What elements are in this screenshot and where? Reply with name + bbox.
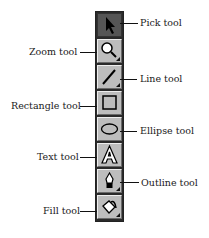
fill-tool-label: Fill tool (43, 205, 80, 216)
pick-tool-button[interactable] (97, 13, 122, 37)
arrow-pointer-icon (98, 14, 121, 36)
rectangle-tool-label: Rectangle tool (11, 100, 81, 111)
rectangle-tool-button[interactable] (97, 91, 122, 115)
flyout-indicator-icon (116, 57, 120, 61)
leader-line (80, 211, 97, 212)
text-tool-label: Text tool (37, 151, 79, 162)
flyout-indicator-icon (116, 213, 120, 217)
flyout-indicator-icon (116, 83, 120, 87)
leader-line (80, 52, 97, 53)
zoom-tool-label: Zoom tool (29, 46, 77, 57)
flyout-indicator-icon (116, 187, 120, 191)
ellipse-tool-button[interactable] (97, 117, 122, 141)
rectangle-icon (98, 92, 121, 114)
ellipse-icon (98, 118, 121, 140)
toolbox (95, 11, 124, 222)
text-tool-button[interactable] (97, 143, 122, 167)
outline-tool-button[interactable] (97, 169, 122, 193)
ellipse-tool-label: Ellipse tool (140, 125, 194, 136)
fill-tool-button[interactable] (97, 195, 122, 219)
pick-tool-label: Pick tool (140, 17, 182, 28)
leader-line (120, 182, 139, 183)
leader-line (120, 23, 138, 24)
leader-line (120, 79, 137, 80)
leader-line (80, 157, 97, 158)
leader-line (80, 106, 97, 107)
outline-tool-label: Outline tool (141, 177, 198, 188)
line-tool-label: Line tool (140, 73, 182, 84)
zoom-tool-button[interactable] (97, 39, 122, 63)
leader-line (120, 131, 137, 132)
letter-a-icon (98, 144, 121, 166)
line-tool-button[interactable] (97, 65, 122, 89)
